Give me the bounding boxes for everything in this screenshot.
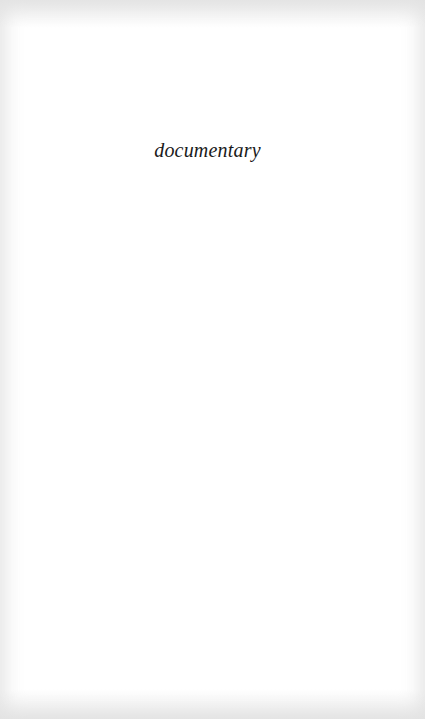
half-title-text: documentary — [0, 139, 425, 162]
book-page: documentary — [0, 0, 425, 719]
